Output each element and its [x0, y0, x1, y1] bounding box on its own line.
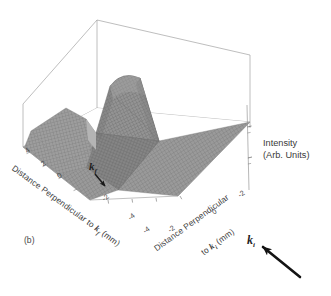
ki-arrow — [263, 247, 300, 277]
ki-label-subscript: i — [253, 241, 255, 249]
kf-label: kf — [89, 160, 97, 175]
surface-plot-figure: 4 2 0 -2 -4 Distance Perpendicular to kf… — [0, 0, 331, 296]
kf-label-subscript: f — [95, 167, 97, 175]
intensity-axis-title-line2: (Arb. Units) — [263, 150, 309, 162]
panel-label: (b) — [24, 235, 35, 245]
intensity-axis-title-line1: Intensity — [263, 138, 309, 150]
intensity-surface-mesh — [23, 75, 250, 200]
intensity-axis-title: Intensity (Arb. Units) — [263, 138, 309, 161]
intensity-axis — [247, 105, 252, 190]
ki-label: ki — [247, 233, 255, 249]
